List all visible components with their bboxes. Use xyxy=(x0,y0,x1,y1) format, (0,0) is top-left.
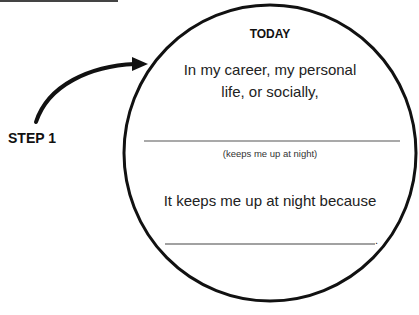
step-arrow-icon xyxy=(36,64,135,122)
blank-1-hint: (keeps me up at night) xyxy=(150,148,390,159)
circle-title: TODAY xyxy=(190,27,350,41)
arrowhead-icon xyxy=(132,57,148,71)
prompt-1-line-2: life, or socially, xyxy=(150,81,390,103)
prompt-1: In my career, my personal life, or socia… xyxy=(150,59,390,103)
step-label: STEP 1 xyxy=(8,130,56,146)
blank-2-period: . xyxy=(375,234,378,246)
prompt-1-line-1: In my career, my personal xyxy=(150,59,390,81)
prompt-2: It keeps me up at night because xyxy=(140,192,400,209)
